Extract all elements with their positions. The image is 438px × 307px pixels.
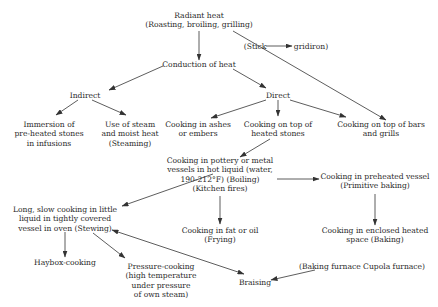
node-braising: Braising — [239, 278, 271, 287]
node-gridiron: gridiron) — [294, 42, 328, 51]
edge-indirect-steaming — [92, 100, 126, 115]
node-ashes: Cooking in ashes or embers — [165, 120, 231, 139]
node-haybox-cooking: Haybox-cooking — [34, 258, 96, 267]
node-conduction-of-heat: Conduction of heat — [162, 60, 235, 69]
node-furnace: (Baking furnace Cupola furnace) — [299, 262, 425, 271]
node-direct: Direct — [266, 91, 290, 100]
edge-stones-boiling — [240, 139, 270, 157]
edge-furnace-braising — [271, 270, 315, 280]
node-primitive-baking: Cooking in preheated vessel (Primitive b… — [320, 172, 429, 191]
edge-conduction-direct — [233, 69, 266, 88]
node-bars-grills: Cooking on top of bars and grills — [337, 120, 425, 139]
node-heated-stones: Cooking on top of heated stones — [244, 120, 312, 139]
node-frying: Cooking in fat or oil (Frying) — [182, 226, 259, 245]
edge-indirect-immersion — [56, 100, 78, 115]
node-baking: Cooking in enclosed heated space (Baking… — [322, 226, 429, 245]
edge-direct-ashes — [211, 100, 266, 118]
node-pressure-cooking: Pressure-cooking (high temperature under… — [126, 262, 197, 300]
node-steaming: Use of steam and moist heat (Steaming) — [101, 120, 158, 148]
node-stick: (Stick — [244, 42, 267, 51]
edge-direct-bars — [290, 100, 346, 117]
node-boiling: Cooking in pottery or metal vessels in h… — [167, 156, 274, 194]
node-immersion: Immersion of pre-heated stones in infusi… — [14, 120, 83, 148]
edge-stewing-pressure — [93, 233, 125, 258]
node-indirect: Indirect — [70, 91, 101, 100]
diagram-canvas: Radiant heat (Roasting, broiling, grilli… — [0, 0, 438, 307]
node-radiant-heat: Radiant heat (Roasting, broiling, grilli… — [145, 11, 253, 30]
node-stewing: Long, slow cooking in little liquid in t… — [13, 205, 117, 233]
edge-conduction-indirect — [109, 66, 163, 90]
